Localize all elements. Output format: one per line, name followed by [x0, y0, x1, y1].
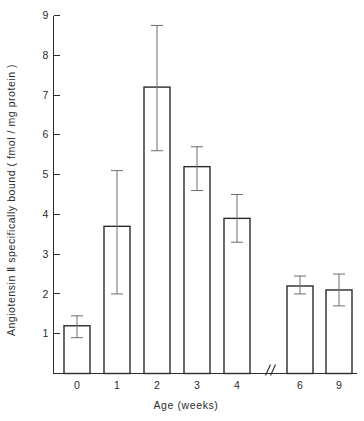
y-tick-label: 3	[42, 248, 48, 260]
y-tick-label: 6	[42, 128, 48, 140]
x-tick-label: 6	[297, 379, 303, 391]
y-tick-labels: 123456789	[42, 9, 48, 339]
y-tick-label: 4	[42, 208, 48, 220]
x-tick-label: 1	[114, 379, 120, 391]
y-tick-label: 7	[42, 89, 48, 101]
y-tick-label: 9	[42, 9, 48, 21]
x-tick-label: 9	[336, 379, 342, 391]
x-tick-label: 0	[74, 379, 80, 391]
y-axis	[54, 16, 60, 374]
chart-figure: 123456789 0123469 Age (weeks) Angiotensi…	[0, 0, 364, 421]
x-axis-title: Age (weeks)	[154, 399, 219, 411]
y-tick-label: 2	[42, 288, 48, 300]
y-tick-label: 1	[42, 327, 48, 339]
bar	[287, 286, 313, 374]
y-tick-label: 8	[42, 49, 48, 61]
bar	[184, 167, 210, 374]
y-axis-title: Angiotensin Ⅱ specifically bound ( fmol …	[5, 64, 17, 336]
x-tick-label: 4	[234, 379, 240, 391]
x-tick-label: 2	[154, 379, 160, 391]
x-tick-labels: 0123469	[74, 379, 342, 391]
y-tick-label: 5	[42, 168, 48, 180]
x-tick-label: 3	[194, 379, 200, 391]
bar-series	[64, 87, 352, 373]
bar-chart-canvas: 123456789 0123469 Age (weeks) Angiotensi…	[0, 0, 364, 421]
